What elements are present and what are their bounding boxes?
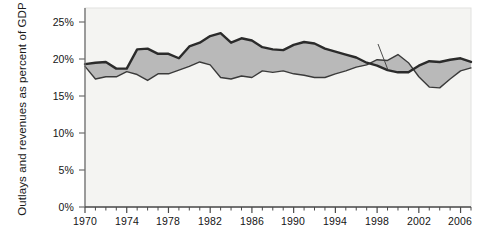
x-tick-marks: [85, 207, 471, 213]
y-tick-marks: [79, 22, 85, 207]
chart-plot-svg: [0, 0, 488, 247]
plot-background: [85, 8, 471, 207]
chart-container: Outlays and revenues as percent of GDP 2…: [0, 0, 488, 247]
